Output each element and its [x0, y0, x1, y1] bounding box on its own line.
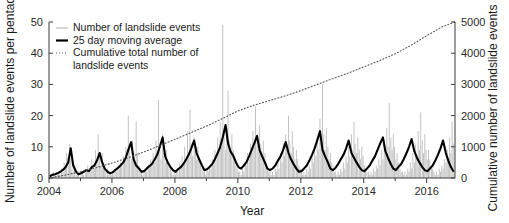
x-tick-label: 2004 [37, 185, 61, 197]
y-tick-label-left: 0 [37, 172, 43, 184]
landslide-events-chart: 0102030405001000200030004000500020042006… [0, 0, 509, 223]
legend: Number of landslide events25 day moving … [56, 21, 200, 71]
chart-canvas: 0102030405001000200030004000500020042006… [0, 0, 509, 223]
y-axis-title-right: Cumulative number of landslide events [486, 5, 500, 212]
y-tick-label-right: 0 [461, 172, 467, 184]
legend-label: landslide events [73, 59, 148, 71]
x-tick-label: 2006 [100, 185, 124, 197]
x-tick-label: 2012 [289, 185, 313, 197]
x-tick-label: 2010 [226, 185, 250, 197]
y-tick-label-left: 40 [31, 47, 43, 59]
y-tick-label-right: 2000 [461, 110, 485, 122]
y-tick-label-left: 30 [31, 78, 43, 90]
legend-label: Number of landslide events [73, 21, 200, 33]
y-tick-label-right: 1000 [461, 141, 485, 153]
y-tick-label-right: 5000 [461, 16, 485, 28]
y-tick-label-left: 50 [31, 16, 43, 28]
legend-label: Cumulative total number of [73, 46, 199, 58]
y-tick-label-right: 3000 [461, 78, 485, 90]
y-tick-label-left: 20 [31, 110, 43, 122]
x-tick-label: 2008 [163, 185, 187, 197]
y-tick-label-right: 4000 [461, 47, 485, 59]
x-axis-title: Year [240, 204, 264, 218]
legend-label: 25 day moving average [73, 34, 182, 46]
y-tick-label-left: 10 [31, 141, 43, 153]
x-tick-label: 2014 [351, 185, 375, 197]
y-axis-title-left: Number of landslide events per pentad [3, 0, 17, 203]
x-tick-label: 2016 [414, 185, 438, 197]
